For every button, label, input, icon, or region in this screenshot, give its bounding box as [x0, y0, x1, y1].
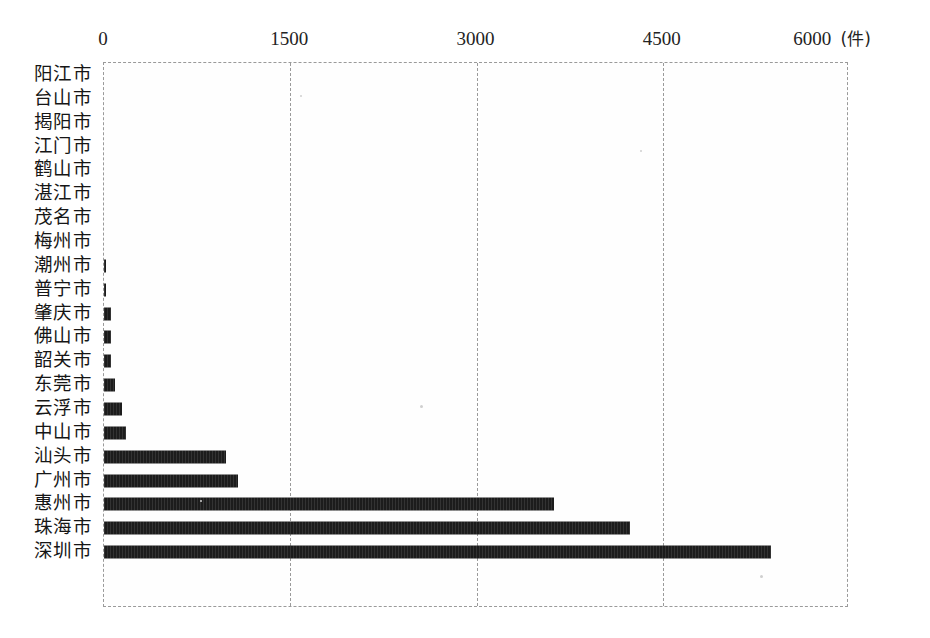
y-category-label: 惠州市	[34, 493, 93, 513]
y-category-label: 汕头市	[34, 446, 93, 466]
y-category-label: 佛山市	[34, 326, 93, 346]
y-category-label: 茂名市	[34, 207, 93, 227]
scan-artifact	[865, 30, 867, 32]
y-category-label: 阳江市	[34, 64, 93, 84]
y-category-label: 鹤山市	[34, 159, 93, 179]
bar	[104, 307, 111, 320]
bar	[104, 259, 106, 272]
scan-artifact	[300, 95, 302, 97]
bar	[104, 426, 126, 439]
y-category-label: 湛江市	[34, 183, 93, 203]
x-axis-tick-labels: 01500300045006000 (件)	[0, 28, 930, 54]
y-category-label: 珠海市	[34, 517, 93, 537]
x-tick-value: 4500	[643, 28, 681, 49]
bar	[104, 474, 238, 487]
x-tick-label: 4500	[643, 28, 681, 50]
y-category-label: 揭阳市	[34, 112, 93, 132]
x-tick-value: 0	[98, 28, 108, 49]
scan-artifact	[760, 575, 763, 578]
bar	[104, 522, 630, 535]
bars-layer	[104, 63, 847, 606]
y-category-label: 广州市	[34, 470, 93, 490]
x-tick-value: 1500	[270, 28, 308, 49]
y-category-label: 江门市	[34, 136, 93, 156]
x-tick-label: 0	[98, 28, 108, 50]
plot-area	[103, 62, 848, 607]
horizontal-bar-chart: 01500300045006000 (件) 阳江市台山市揭阳市江门市鹤山市湛江市…	[0, 0, 930, 638]
y-category-label: 梅州市	[34, 231, 93, 251]
x-tick-value: 6000	[793, 28, 831, 49]
scan-artifact	[640, 150, 642, 152]
y-axis-category-labels: 阳江市台山市揭阳市江门市鹤山市湛江市茂名市梅州市潮州市普宁市肇庆市佛山市韶关市东…	[0, 62, 98, 607]
y-category-label: 肇庆市	[34, 303, 93, 323]
scan-artifact	[200, 500, 202, 502]
bar	[104, 498, 554, 511]
scan-artifact	[420, 405, 423, 408]
bar	[104, 402, 122, 415]
bar	[104, 379, 115, 392]
bar	[104, 546, 771, 559]
x-tick-label: 1500	[270, 28, 308, 50]
x-tick-label: 6000 (件)	[793, 28, 871, 50]
y-category-label: 台山市	[34, 88, 93, 108]
bar	[104, 283, 106, 296]
y-category-label: 东莞市	[34, 374, 93, 394]
y-category-label: 深圳市	[34, 541, 93, 561]
bar	[104, 450, 226, 463]
bar	[104, 355, 111, 368]
y-category-label: 普宁市	[34, 279, 93, 299]
y-category-label: 韶关市	[34, 350, 93, 370]
bar	[104, 331, 111, 344]
y-category-label: 潮州市	[34, 255, 93, 275]
y-category-label: 云浮市	[34, 398, 93, 418]
x-tick-value: 3000	[457, 28, 495, 49]
y-category-label: 中山市	[34, 422, 93, 442]
x-tick-label: 3000	[457, 28, 495, 50]
x-axis-unit-label: (件)	[835, 29, 871, 49]
